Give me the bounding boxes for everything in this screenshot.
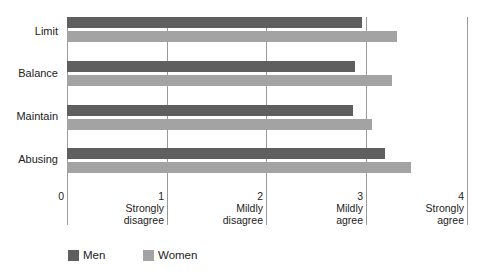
tick-1-label-line2: disagree <box>100 214 164 226</box>
tick-2-label-line1: Mildly <box>200 202 263 214</box>
bar-abusing-men <box>67 148 385 159</box>
tick-1-label-line1: Strongly <box>100 202 164 214</box>
legend-label-men: Men <box>83 248 105 262</box>
tick-2-label-line2: disagree <box>200 214 263 226</box>
bar-balance-men <box>67 61 355 72</box>
bar-maintain-men <box>67 105 353 116</box>
tick-3-number: 3 <box>300 190 363 202</box>
category-label-abusing: Abusing <box>0 153 58 166</box>
tick-3: 3 Mildly agree <box>300 190 363 226</box>
category-label-balance: Balance <box>0 67 58 80</box>
bar-limit-women <box>67 31 397 42</box>
legend-label-women: Women <box>158 248 197 262</box>
legend-swatch-men <box>68 250 79 261</box>
bar-balance-women <box>67 75 392 86</box>
tick-1-number: 1 <box>100 190 164 202</box>
tick-3-label-line1: Mildly <box>300 202 363 214</box>
bar-limit-men <box>67 17 362 28</box>
tick-1: 1 Strongly disagree <box>100 190 164 226</box>
gridline-4 <box>467 17 468 225</box>
tick-4-number: 4 <box>400 190 464 202</box>
tick-0: 0 <box>40 190 64 202</box>
category-label-limit: Limit <box>0 25 58 38</box>
tick-2: 2 Mildly disagree <box>200 190 263 226</box>
tick-4-label-line2: agree <box>400 214 464 226</box>
tick-3-label-line2: agree <box>300 214 363 226</box>
category-label-maintain: Maintain <box>0 110 58 123</box>
tick-4: 4 Strongly agree <box>400 190 464 226</box>
bar-maintain-women <box>67 119 372 130</box>
tick-2-number: 2 <box>200 190 263 202</box>
legend-swatch-women <box>143 250 154 261</box>
tick-4-label-line1: Strongly <box>400 202 464 214</box>
bar-abusing-women <box>67 162 411 173</box>
